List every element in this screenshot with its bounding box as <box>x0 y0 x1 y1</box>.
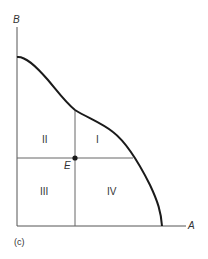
quadrant-label-i: I <box>96 134 99 145</box>
quadrant-label-ii: II <box>42 134 48 145</box>
quadrant-label-iii: III <box>40 186 48 197</box>
point-label: E <box>64 160 71 171</box>
x-axis-label: A <box>188 220 195 231</box>
frontier-curve <box>17 57 162 226</box>
y-axis-label: B <box>13 14 20 25</box>
diagram-canvas <box>0 0 208 259</box>
figure-caption: (c) <box>14 237 25 247</box>
equilibrium-point <box>72 155 77 160</box>
quadrant-label-iv: IV <box>107 186 116 197</box>
